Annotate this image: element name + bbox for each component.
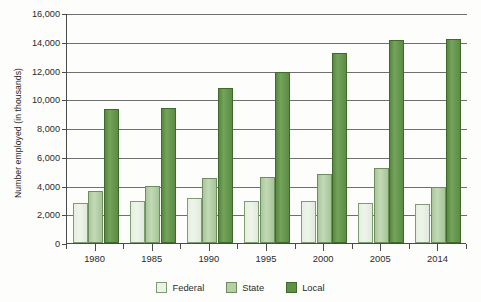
bar-group	[73, 13, 119, 243]
bar-group	[130, 13, 176, 243]
y-tick-label: 16,000	[6, 9, 60, 19]
legend-swatch-federal-icon	[156, 282, 167, 293]
bar-local-1995[interactable]	[275, 72, 290, 243]
y-tick-label: 10,000	[6, 95, 60, 105]
x-tick-mark	[152, 244, 153, 251]
bar-group	[415, 13, 461, 243]
x-tick-boundary	[409, 244, 410, 249]
legend-label-federal: Federal	[172, 282, 204, 293]
bar-local-1980[interactable]	[104, 109, 119, 243]
x-tick-boundary	[237, 244, 238, 249]
x-tick-boundary	[466, 244, 467, 249]
bar-local-2005[interactable]	[389, 40, 404, 243]
bar-group	[358, 13, 404, 243]
bar-local-2014[interactable]	[446, 39, 461, 243]
y-tick-label: 8,000	[6, 124, 60, 134]
bar-federal-2014[interactable]	[415, 204, 430, 243]
y-tick-label: 14,000	[6, 38, 60, 48]
legend-item-state[interactable]: State	[226, 282, 264, 293]
bar-group	[301, 13, 347, 243]
x-tick-boundary	[295, 244, 296, 249]
bar-federal-1985[interactable]	[130, 201, 145, 243]
x-tick-mark	[95, 244, 96, 251]
bar-state-1985[interactable]	[145, 186, 160, 244]
y-tick-label: 2,000	[6, 210, 60, 220]
x-tick-label-1980: 1980	[65, 253, 125, 264]
x-tick-label-1990: 1990	[179, 253, 239, 264]
x-tick-boundary	[352, 244, 353, 249]
bar-state-2005[interactable]	[374, 168, 389, 243]
bar-federal-1995[interactable]	[244, 201, 259, 243]
bar-state-2014[interactable]	[431, 187, 446, 243]
bar-federal-1990[interactable]	[187, 198, 202, 243]
x-tick-label-2005: 2005	[350, 253, 410, 264]
y-tick-label: 6,000	[6, 153, 60, 163]
y-tick-mark	[62, 215, 67, 216]
bar-group	[244, 13, 290, 243]
bar-state-1995[interactable]	[260, 177, 275, 243]
plot-area	[66, 14, 466, 244]
y-tick-label: 4,000	[6, 182, 60, 192]
y-tick-mark	[62, 72, 67, 73]
x-tick-boundary	[180, 244, 181, 249]
y-tick-mark	[62, 158, 67, 159]
chart-figure: Number employed (in thousands) 02,0004,0…	[0, 0, 481, 302]
x-tick-mark	[380, 244, 381, 251]
legend-swatch-state-icon	[226, 282, 237, 293]
x-tick-boundary	[123, 244, 124, 249]
y-tick-mark	[62, 14, 67, 15]
legend-label-state: State	[242, 282, 264, 293]
bar-group	[187, 13, 233, 243]
y-tick-mark	[62, 43, 67, 44]
y-tick-mark	[62, 129, 67, 130]
bar-federal-2000[interactable]	[301, 201, 316, 243]
legend-swatch-local-icon	[286, 282, 297, 293]
bar-state-2000[interactable]	[317, 174, 332, 243]
x-tick-mark	[209, 244, 210, 251]
y-tick-label: 12,000	[6, 67, 60, 77]
y-tick-mark	[62, 100, 67, 101]
bar-local-1990[interactable]	[218, 88, 233, 243]
legend-item-local[interactable]: Local	[286, 282, 324, 293]
bar-federal-2005[interactable]	[358, 203, 373, 243]
legend-item-federal[interactable]: Federal	[156, 282, 204, 293]
legend-label-local: Local	[302, 282, 324, 293]
bar-federal-1980[interactable]	[73, 203, 88, 243]
x-tick-label-1985: 1985	[122, 253, 182, 264]
bar-local-2000[interactable]	[332, 53, 347, 243]
x-tick-label-2000: 2000	[293, 253, 353, 264]
bar-state-1980[interactable]	[88, 191, 103, 243]
x-tick-boundary	[66, 244, 67, 249]
x-tick-mark	[323, 244, 324, 251]
chart-legend: FederalStateLocal	[0, 282, 481, 293]
x-tick-label-2014: 2014	[407, 253, 467, 264]
bar-local-1985[interactable]	[161, 108, 176, 243]
y-tick-label: 0	[6, 239, 60, 249]
bar-state-1990[interactable]	[202, 178, 217, 243]
x-tick-mark	[266, 244, 267, 251]
x-tick-mark	[437, 244, 438, 251]
y-tick-mark	[62, 187, 67, 188]
x-tick-label-1995: 1995	[236, 253, 296, 264]
